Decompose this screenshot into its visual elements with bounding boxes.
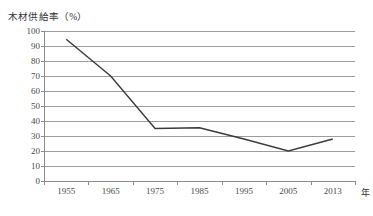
y-axis-tick-mark [41, 61, 45, 62]
x-axis-tick-mark [266, 181, 267, 185]
y-axis-title: 木材供給率（%） [8, 9, 88, 23]
x-axis-line [44, 181, 356, 182]
y-axis-tick-label: 30 [6, 131, 40, 141]
x-axis-tick-mark [222, 181, 223, 185]
x-axis-tick-label: 1995 [235, 186, 253, 196]
y-axis-tick-label: 60 [6, 86, 40, 96]
y-axis-tick-mark [41, 76, 45, 77]
y-axis-tick-mark [41, 46, 45, 47]
y-axis-tick-label: 70 [6, 71, 40, 81]
x-axis-tick-label: 1965 [102, 186, 120, 196]
y-axis-tick-mark [41, 121, 45, 122]
y-axis-tick-label: 50 [6, 101, 40, 111]
y-axis-tick-label: 40 [6, 116, 40, 126]
chart-container: 木材供給率（%） 1009080706050403020100 19551965… [0, 0, 373, 216]
x-axis-tick-mark [133, 181, 134, 185]
data-series-line [44, 31, 355, 181]
y-axis-tick-mark [41, 91, 45, 92]
y-axis-tick-label: 100 [6, 26, 40, 36]
y-axis-tick-mark [41, 31, 45, 32]
y-axis-tick-mark [41, 181, 45, 182]
y-axis-tick-label: 10 [6, 161, 40, 171]
x-axis-unit-label: 年 [361, 186, 370, 199]
y-axis-tick-mark [41, 136, 45, 137]
y-axis-tick-label: 20 [6, 146, 40, 156]
x-axis-tick-mark [311, 181, 312, 185]
x-axis-tick-label: 1985 [191, 186, 209, 196]
x-axis-tick-label: 2005 [279, 186, 297, 196]
y-axis-tick-mark [41, 106, 45, 107]
x-axis-tick-label: 1955 [57, 186, 75, 196]
x-axis-tick-label: 1975 [146, 186, 164, 196]
x-axis-tick-mark [177, 181, 178, 185]
x-axis-tick-mark [88, 181, 89, 185]
y-axis-tick-label: 90 [6, 41, 40, 51]
y-axis-tick-group: 1009080706050403020100 [0, 31, 40, 181]
y-axis-tick-mark [41, 166, 45, 167]
y-axis-tick-mark [41, 151, 45, 152]
x-axis-tick-label: 2013 [324, 186, 342, 196]
x-axis-tick-mark [355, 181, 356, 185]
y-axis-tick-label: 0 [6, 176, 40, 186]
y-axis-tick-label: 80 [6, 56, 40, 66]
